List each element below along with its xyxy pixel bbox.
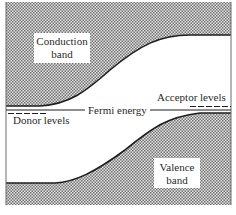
band-diagram: Fermi energy Donor levels Acceptor level…	[0, 0, 236, 215]
fermi-energy-label: Fermi energy	[88, 104, 147, 116]
valence-band-label-line1: Valence	[160, 161, 195, 173]
conduction-band-label-line1: Conduction	[36, 35, 88, 47]
conduction-band-label-line2: band	[51, 48, 73, 60]
valence-band-label-line2: band	[166, 174, 188, 186]
donor-levels-label: Donor levels	[13, 114, 70, 126]
acceptor-levels-label: Acceptor levels	[157, 91, 226, 103]
